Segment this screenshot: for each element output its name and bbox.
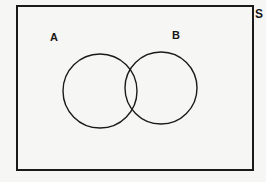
- venn-diagram-figure: A B S: [0, 0, 266, 182]
- set-b-label: B: [172, 30, 180, 41]
- set-a-circle: [63, 54, 137, 128]
- universal-set-label: S: [255, 8, 263, 20]
- venn-diagram-canvas: [0, 0, 266, 182]
- set-a-label: A: [50, 32, 58, 43]
- set-b-circle: [125, 52, 197, 124]
